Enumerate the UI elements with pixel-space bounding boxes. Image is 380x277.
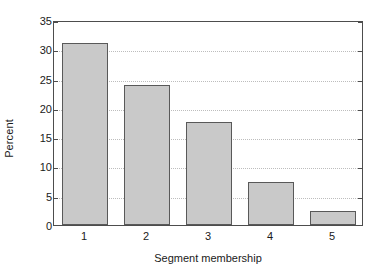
y-tick-label: 10 [18,162,52,173]
x-axis-title: Segment membership [53,252,363,264]
y-tick-label: 15 [18,133,52,144]
bar [186,122,233,225]
x-axis-tick-labels: 12345 [53,230,363,246]
x-tick-label: 2 [143,230,149,243]
y-tick-label: 20 [18,103,52,114]
y-axis-title: Percent [0,0,18,277]
x-tick-label: 4 [267,230,273,243]
y-tick-label: 25 [18,74,52,85]
x-tick-label: 5 [329,230,335,243]
bar-chart-figure: Percent 05101520253035 12345 Segment mem… [0,0,380,277]
plot-area [53,21,363,226]
y-tick-label: 5 [18,191,52,202]
y-tick-label: 30 [18,45,52,56]
x-tick-label: 3 [205,230,211,243]
bar [310,211,357,225]
bar [248,182,295,225]
y-axis-tick-labels: 05101520253035 [18,0,52,277]
bar-series [54,22,362,225]
y-tick-label: 0 [18,221,52,232]
y-tick-label: 35 [18,16,52,27]
bar [62,43,109,225]
x-tick-label: 1 [81,230,87,243]
bar [124,85,171,225]
